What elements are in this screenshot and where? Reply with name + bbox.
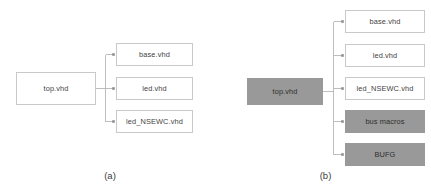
caption-panel-a: (a) [0,170,220,181]
caption-panel-b: (b) [220,170,431,181]
panel-b: top.vhd base.vhd led.vhd led_NSEWC.vhd b… [220,0,431,196]
hierarchy-figure: top.vhd base.vhd led.vhd led_NSEWC.vhd (… [0,0,431,196]
arrowhead-led-nsewc-icon [112,120,115,123]
node-top-vhd[interactable]: top.vhd [16,72,96,105]
arrowhead-bufg-icon [341,153,344,156]
node-top-vhd[interactable]: top.vhd [247,78,323,105]
arrowhead-bus-macros-icon [341,120,344,123]
arrowhead-led-nsewc-icon [341,87,344,90]
arrowhead-led-icon [341,54,344,57]
arrowhead-base-icon [341,20,344,23]
node-bufg[interactable]: BUFG [345,143,425,166]
node-led-nsewc-vhd[interactable]: led_NSEWC.vhd [345,77,425,100]
node-led-vhd[interactable]: led.vhd [116,77,193,100]
node-base-vhd[interactable]: base.vhd [345,10,425,33]
node-bus-macros[interactable]: bus macros [345,110,425,133]
node-led-nsewc-vhd[interactable]: led_NSEWC.vhd [116,110,193,133]
node-base-vhd[interactable]: base.vhd [116,43,193,66]
arrowhead-base-icon [112,53,115,56]
node-led-vhd[interactable]: led.vhd [345,44,425,67]
arrowhead-led-icon [112,87,115,90]
panel-a: top.vhd base.vhd led.vhd led_NSEWC.vhd (… [0,0,220,196]
